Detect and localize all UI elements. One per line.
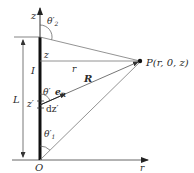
theta1-label: θ′1 — [44, 129, 55, 140]
R-vector-label: R — [83, 73, 92, 84]
r-distance-label: r — [72, 64, 77, 74]
z-axis-label: z — [30, 10, 37, 21]
current-label: I — [30, 65, 36, 76]
theta2-label: θ′2 — [47, 16, 58, 27]
theta-label: θ′ — [43, 87, 50, 97]
wire-field-diagram: z θ′2 z I r R P(r, 0, z) L θ′ eR z′ dz′ … — [0, 0, 194, 173]
eR-label: eR — [55, 87, 67, 98]
point-P-dot — [138, 59, 142, 63]
z-prime-label: z′ — [26, 99, 34, 109]
line-top-to-P — [40, 37, 140, 61]
dz-prime-label: dz′ — [46, 104, 59, 114]
origin-label: O — [35, 162, 43, 173]
r-axis-label: r — [140, 163, 145, 173]
length-label: L — [12, 94, 20, 105]
point-P-label: P(r, 0, z) — [145, 57, 189, 68]
z-level-label: z — [43, 50, 49, 60]
